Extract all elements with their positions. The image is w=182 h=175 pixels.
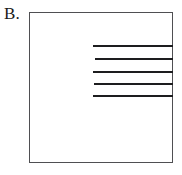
panel-label: B. bbox=[4, 5, 20, 23]
diagram-frame bbox=[29, 12, 173, 163]
figure-panel: B. bbox=[0, 0, 182, 175]
